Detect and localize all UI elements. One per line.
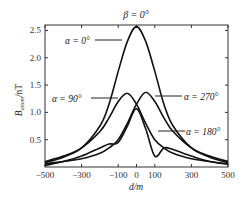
y-axis-label: Banom/nT [14,84,25,117]
y-tick-label: 0.5 [30,135,42,145]
chart-title: β = 0° [122,9,149,20]
annotation-alpha-180: α = 180° [186,127,220,137]
y-tick-label: 1.0 [30,107,42,117]
y-tick-label: 2.0 [30,53,42,63]
annotation-alpha-270: α = 270° [184,92,218,102]
x-tick-label: −500 [36,170,55,180]
x-tick-label: 300 [185,170,199,180]
x-tick-label: 500 [221,170,235,180]
y-tick-label: 2.5 [30,25,42,35]
chart: β = 0° 0.51.01.52.02.5 −500−300−10001003… [0,0,242,200]
x-tick-label: −300 [72,170,91,180]
x-tick-label: 0 [134,170,139,180]
annotation-alpha-90: α = 90° [52,94,82,104]
y-tick-label: 1.5 [30,80,42,90]
x-tick-label: −100 [109,170,128,180]
x-tick-label: 100 [148,170,162,180]
x-axis-label: d/m [129,182,143,192]
annotation-alpha-0: α = 0° [65,36,90,46]
